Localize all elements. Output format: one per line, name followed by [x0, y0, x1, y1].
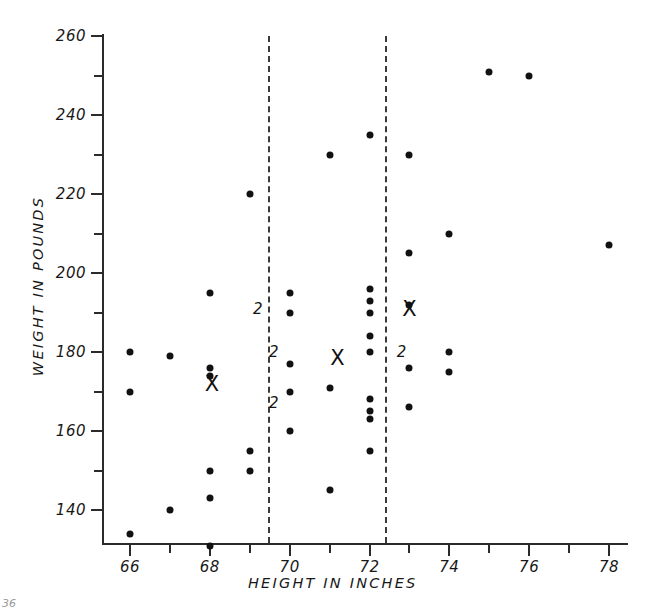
data-point — [406, 151, 413, 158]
x-tick-major — [528, 544, 530, 556]
y-tick-minor — [94, 312, 103, 314]
data-point — [366, 285, 373, 292]
data-point — [366, 396, 373, 403]
data-point — [446, 368, 453, 375]
x-tick-label: 66 — [120, 558, 140, 576]
data-point — [206, 289, 213, 296]
data-point — [366, 309, 373, 316]
x-axis-title: HEIGHT IN INCHES — [248, 575, 417, 591]
scatter-plot-figure: 140160180200220240260 66687072747678 WEI… — [0, 0, 668, 615]
overlap-count-label: 2 — [269, 343, 279, 361]
overlap-count-label: 2 — [269, 394, 279, 412]
y-tick-major — [91, 114, 103, 116]
y-tick-label: 180 — [56, 343, 86, 361]
data-point — [366, 131, 373, 138]
data-point — [166, 507, 173, 514]
data-point — [246, 191, 253, 198]
x-tick-label: 70 — [280, 558, 300, 576]
x-tick-minor — [169, 544, 171, 553]
group-mean-marker: X — [205, 373, 219, 394]
y-tick-label: 220 — [56, 185, 86, 203]
y-tick-major — [91, 430, 103, 432]
y-tick-major — [91, 35, 103, 37]
data-point — [127, 530, 134, 537]
data-point — [366, 408, 373, 415]
data-point — [286, 289, 293, 296]
x-tick-major — [289, 544, 291, 556]
data-point — [406, 250, 413, 257]
x-tick-major — [369, 544, 371, 556]
data-point — [206, 467, 213, 474]
group-divider-line — [385, 36, 387, 543]
x-tick-major — [129, 544, 131, 556]
data-point — [526, 72, 533, 79]
x-axis-line — [102, 543, 628, 545]
data-point — [127, 388, 134, 395]
x-tick-minor — [408, 544, 410, 553]
y-axis-title: WEIGHT IN POUNDS — [30, 186, 46, 386]
data-point — [486, 68, 493, 75]
data-point — [406, 404, 413, 411]
y-tick-minor — [94, 75, 103, 77]
x-tick-label: 68 — [200, 558, 220, 576]
y-tick-label: 200 — [56, 264, 86, 282]
data-point — [606, 242, 613, 249]
y-tick-label: 260 — [56, 27, 86, 45]
page-number: 36 — [2, 597, 16, 610]
x-tick-minor — [329, 544, 331, 553]
data-point — [246, 467, 253, 474]
data-point — [406, 364, 413, 371]
y-tick-major — [91, 509, 103, 511]
y-tick-minor — [94, 470, 103, 472]
data-point — [366, 349, 373, 356]
data-point — [446, 349, 453, 356]
y-axis-line — [102, 34, 104, 544]
data-point — [206, 542, 213, 549]
y-tick-label: 140 — [56, 501, 86, 519]
y-tick-major — [91, 193, 103, 195]
x-tick-major — [608, 544, 610, 556]
y-tick-minor — [94, 233, 103, 235]
data-point — [326, 487, 333, 494]
x-tick-minor — [568, 544, 570, 553]
x-tick-major — [448, 544, 450, 556]
x-tick-label: 76 — [519, 558, 539, 576]
data-point — [366, 297, 373, 304]
y-tick-label: 160 — [56, 422, 86, 440]
x-tick-label: 72 — [359, 558, 379, 576]
x-tick-minor — [488, 544, 490, 553]
x-tick-label: 74 — [439, 558, 459, 576]
data-point — [286, 309, 293, 316]
y-tick-major — [91, 351, 103, 353]
data-point — [326, 384, 333, 391]
data-point — [366, 333, 373, 340]
data-point — [127, 349, 134, 356]
overlap-count-label: 2 — [397, 343, 407, 361]
data-point — [206, 495, 213, 502]
data-point — [366, 447, 373, 454]
data-point — [366, 416, 373, 423]
x-tick-label: 78 — [599, 558, 619, 576]
group-divider-line — [268, 36, 270, 543]
data-point — [246, 447, 253, 454]
data-point — [166, 352, 173, 359]
data-point — [286, 388, 293, 395]
y-tick-label: 240 — [56, 106, 86, 124]
y-tick-minor — [94, 154, 103, 156]
data-point — [326, 151, 333, 158]
overlap-count-label: 2 — [253, 300, 263, 318]
y-tick-major — [91, 272, 103, 274]
y-tick-minor — [94, 391, 103, 393]
group-mean-marker: X — [402, 298, 416, 319]
x-tick-minor — [249, 544, 251, 553]
data-point — [446, 230, 453, 237]
data-point — [286, 428, 293, 435]
group-mean-marker: X — [330, 347, 344, 368]
data-point — [286, 360, 293, 367]
